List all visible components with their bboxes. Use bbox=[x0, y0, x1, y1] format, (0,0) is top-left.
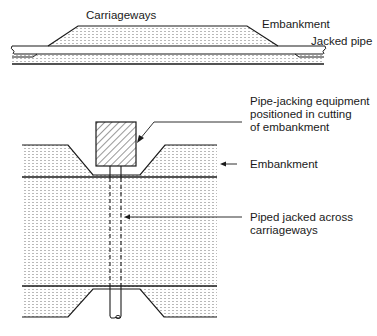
diagram-canvas bbox=[0, 0, 377, 336]
label-plan-embankment: Embankment bbox=[250, 158, 318, 171]
elevation-view bbox=[11, 26, 326, 64]
leader-equipment bbox=[140, 122, 242, 139]
label-carriageways: Carriageways bbox=[86, 9, 156, 22]
jacking-equipment-box bbox=[96, 122, 136, 166]
top-jacked-pipe bbox=[11, 46, 326, 54]
plan-view bbox=[22, 122, 242, 319]
label-pipe-jacked: Piped jacked across carriageways bbox=[250, 211, 353, 237]
top-embankment bbox=[48, 26, 278, 46]
carriageway-area bbox=[22, 177, 217, 287]
label-top-embankment: Embankment bbox=[262, 18, 330, 31]
lower-embankment bbox=[22, 288, 217, 317]
label-jacking-equipment: Pipe-jacking equipment positioned in cut… bbox=[250, 95, 370, 134]
label-jacked-pipe: Jacked pipe bbox=[311, 35, 372, 48]
